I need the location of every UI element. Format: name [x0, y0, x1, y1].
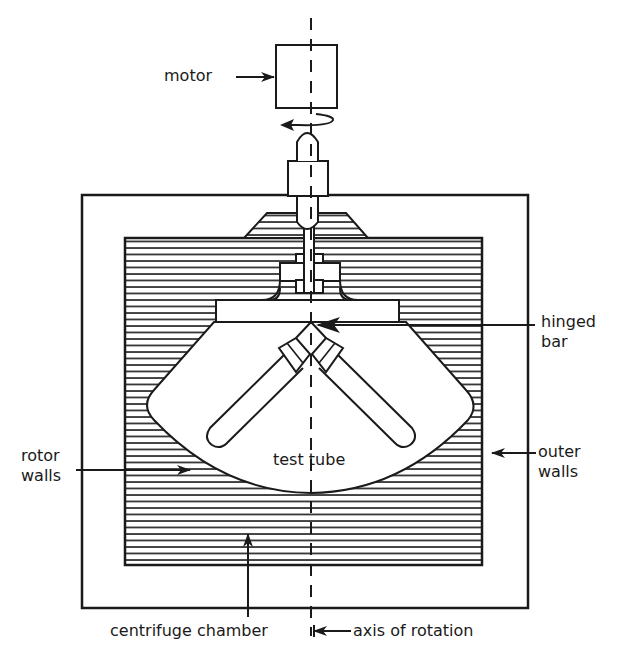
shaft-capsule	[297, 195, 318, 229]
label-outer-walls: outer walls	[538, 442, 581, 482]
label-rotor-walls: rotor walls	[21, 446, 61, 486]
label-axis-of-rotation: axis of rotation	[353, 621, 473, 641]
label-hinged-bar: hinged bar	[541, 312, 596, 352]
coupling	[288, 161, 328, 196]
label-test-tube: test tube	[273, 450, 345, 470]
label-motor: motor	[164, 66, 212, 86]
label-centrifuge-chamber: centrifuge chamber	[110, 621, 268, 641]
centrifuge-diagram	[0, 0, 626, 666]
coupling-dome	[297, 133, 318, 161]
motor	[276, 45, 337, 108]
